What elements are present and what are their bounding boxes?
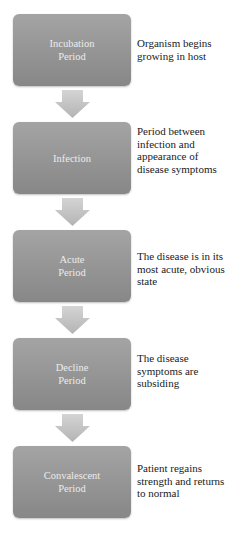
stage-label: Acute Period bbox=[58, 253, 85, 279]
stage-description-infection: Period between infection and appearance … bbox=[137, 125, 232, 175]
down-arrow-icon bbox=[55, 90, 90, 118]
stage-box-convalescent: Convalescent Period bbox=[13, 446, 131, 518]
stage-box-decline: Decline Period bbox=[13, 338, 131, 410]
stage-box-acute: Acute Period bbox=[13, 230, 131, 302]
stage-description-incubation: Organism begins growing in host bbox=[137, 37, 232, 62]
stage-label: Infection bbox=[53, 152, 91, 165]
stage-label: Incubation Period bbox=[50, 37, 95, 63]
stage-description-acute: The disease is in its most acute, obviou… bbox=[137, 250, 232, 288]
down-arrow-icon bbox=[55, 198, 90, 226]
stage-description-decline: The disease symptoms are subsiding bbox=[137, 352, 232, 390]
down-arrow-icon bbox=[55, 414, 90, 442]
stage-box-incubation: Incubation Period bbox=[13, 14, 131, 86]
stage-box-infection: Infection bbox=[13, 122, 131, 194]
stage-label: Decline Period bbox=[56, 361, 89, 387]
stage-label: Convalescent Period bbox=[44, 469, 101, 495]
stage-description-convalescent: Patient regains strength and returns to … bbox=[137, 462, 232, 500]
down-arrow-icon bbox=[55, 306, 90, 334]
